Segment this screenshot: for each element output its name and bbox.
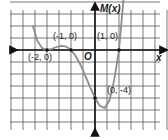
x-axis-title: x <box>156 53 162 63</box>
origin-label: O <box>84 52 92 62</box>
y-axis-title: M(x) <box>100 4 121 14</box>
point-marker <box>93 96 97 100</box>
chart: M(x) x O (-2, 0) (-1, 0) (1, 0) (0, -4) <box>0 0 168 140</box>
point-marker <box>69 48 73 52</box>
chart-plot <box>0 0 168 140</box>
point-marker <box>117 48 121 52</box>
point-label-min: (0, -4) <box>107 86 131 95</box>
point-label-neg1: (-1, 0) <box>53 32 77 41</box>
point-label-pos1: (1, 0) <box>97 32 118 41</box>
point-label-neg2: (-2, 0) <box>28 53 52 62</box>
